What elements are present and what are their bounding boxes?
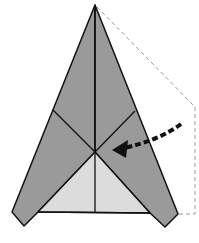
bottom-edge <box>38 212 150 213</box>
folding-diagram <box>0 0 199 243</box>
